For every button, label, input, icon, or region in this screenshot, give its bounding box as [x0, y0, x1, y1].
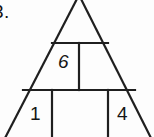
triangle-diagram [0, 0, 154, 137]
lower-left-cell-value: 1 [30, 104, 41, 123]
upper-left-cell-value: 6 [58, 52, 69, 71]
problem-number-label: 3. [0, 2, 10, 21]
triangle-figure: 3. 6 1 4 [0, 0, 154, 137]
lower-right-cell-value: 4 [117, 104, 128, 123]
triangle-right-side [79, 0, 152, 137]
